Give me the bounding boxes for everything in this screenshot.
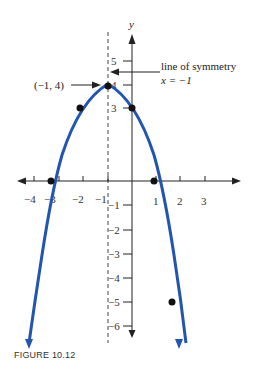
svg-text:−2: −2 [108, 224, 120, 236]
svg-text:3: 3 [201, 195, 207, 207]
svg-text:−5: −5 [108, 296, 120, 308]
symmetry-annotation-line2: x = −1 [160, 74, 192, 86]
svg-text:2: 2 [177, 195, 183, 207]
curve-left-arrow [25, 339, 33, 349]
svg-text:−1: −1 [95, 193, 107, 205]
svg-text:−1: −1 [108, 199, 120, 211]
svg-text:1: 1 [153, 195, 159, 207]
y-axis-label: y [128, 18, 134, 30]
x-ticks [34, 176, 205, 181]
svg-text:5: 5 [111, 55, 117, 67]
x-axis-right-arrow [232, 178, 241, 185]
y-tick-labels: 5 4 3 −1 −2 −3 −4 −5 −6 [108, 55, 120, 332]
curve-right-arrow [175, 339, 183, 349]
svg-text:−2: −2 [72, 193, 84, 205]
svg-text:−4: −4 [24, 193, 36, 205]
figure-caption: FIGURE 10.12 [14, 350, 75, 360]
y-axis-down-arrow [129, 330, 136, 338]
symmetry-annotation-line1: line of symmetry [161, 60, 237, 72]
svg-text:−3: −3 [108, 248, 120, 260]
svg-text:−4: −4 [108, 272, 120, 284]
symmetry-annotation-arrowhead [110, 69, 119, 76]
vertex-annotation-arrowhead [92, 82, 101, 89]
vertex-annotation: (−1, 4) [34, 79, 64, 92]
svg-text:−6: −6 [108, 320, 120, 332]
x-axis-left-arrow [17, 178, 26, 185]
parabola-graph: y −4 −3 −2 −1 1 2 3 5 4 3 −1 −2 −3 [0, 0, 258, 371]
y-axis-up-arrow [129, 34, 136, 44]
svg-text:3: 3 [111, 102, 117, 114]
